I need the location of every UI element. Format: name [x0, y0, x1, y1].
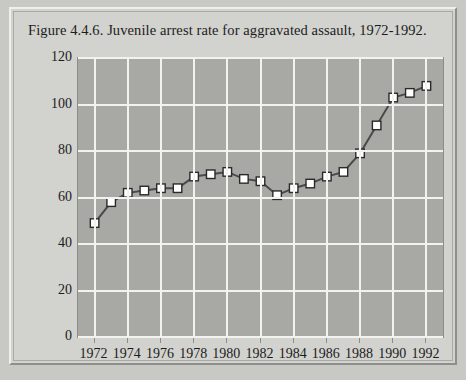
x-axis-tick-label: 1976	[146, 346, 174, 362]
y-axis-tick-label: 0	[65, 328, 72, 344]
figure-frame: Figure 4.4.6. Juvenile arrest rate for a…	[9, 7, 457, 365]
y-axis-tick-label: 20	[58, 282, 72, 298]
y-axis-tick-label: 120	[51, 49, 72, 65]
gridline-vertical	[293, 58, 295, 337]
gridline-vertical	[392, 58, 394, 337]
data-point-marker	[406, 89, 415, 98]
gridline-vertical	[226, 58, 228, 337]
gridline-vertical	[326, 58, 328, 337]
x-axis-tick-mark	[293, 338, 294, 343]
x-axis-tick-label: 1974	[113, 346, 141, 362]
data-point-marker	[240, 175, 249, 184]
x-axis-tick-label: 1986	[312, 346, 340, 362]
gridline-vertical	[359, 58, 361, 337]
figure-inner-panel: Figure 4.4.6. Juvenile arrest rate for a…	[13, 11, 453, 361]
gridline-vertical	[160, 58, 162, 337]
x-axis-tick-label: 1990	[378, 346, 406, 362]
y-axis-tick-label: 60	[58, 189, 72, 205]
x-axis-tick-mark	[359, 338, 360, 343]
gridline-vertical	[425, 58, 427, 337]
x-axis-tick-mark	[226, 338, 227, 343]
x-axis-tick-mark	[425, 338, 426, 343]
data-point-marker	[173, 184, 182, 193]
y-axis-tick-label: 40	[58, 235, 72, 251]
plot-area	[77, 57, 444, 338]
data-point-marker	[306, 179, 315, 188]
x-axis-tick-label: 1988	[345, 346, 373, 362]
gridline-vertical	[127, 58, 129, 337]
x-axis-tick-mark	[94, 338, 95, 343]
x-axis-tick-mark	[193, 338, 194, 343]
x-axis-tick-mark	[160, 338, 161, 343]
data-point-marker	[339, 168, 348, 177]
gridline-vertical	[193, 58, 195, 337]
gridline-vertical	[260, 58, 262, 337]
x-axis-tick-label: 1980	[212, 346, 240, 362]
y-axis-tick-labels: 020406080100120	[28, 57, 72, 338]
x-axis-tick-mark	[260, 338, 261, 343]
data-point-marker	[372, 121, 381, 129]
data-point-marker	[140, 186, 149, 195]
chart-title: Figure 4.4.6. Juvenile arrest rate for a…	[28, 22, 427, 39]
y-axis-tick-label: 100	[51, 96, 72, 112]
x-axis-tick-mark	[127, 338, 128, 343]
x-axis-tick-label: 1982	[246, 346, 274, 362]
x-axis-tick-mark	[392, 338, 393, 343]
data-point-marker	[206, 170, 215, 179]
data-point-marker	[107, 198, 116, 207]
x-axis-tick-label: 1978	[179, 346, 207, 362]
x-axis-tick-label: 1992	[411, 346, 439, 362]
gridline-vertical	[94, 58, 96, 337]
x-axis-tick-label: 1972	[80, 346, 108, 362]
y-axis-tick-label: 80	[58, 142, 72, 158]
x-axis-tick-marks	[77, 338, 444, 344]
x-axis-tick-labels: 1972197419761978198019821984198619881990…	[77, 346, 444, 366]
x-axis-tick-label: 1984	[279, 346, 307, 362]
x-axis-tick-mark	[326, 338, 327, 343]
